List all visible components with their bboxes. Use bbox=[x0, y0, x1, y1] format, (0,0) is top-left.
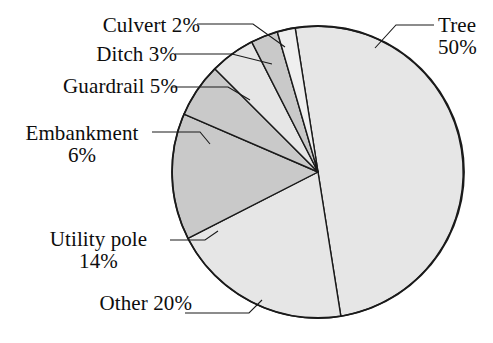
slice-label-culvert-text: Culvert 2% bbox=[103, 13, 200, 37]
pie-slices-group bbox=[172, 26, 464, 318]
slice-label-utility-pole: Utility pole 14% bbox=[26, 228, 171, 273]
slice-label-embankment-value: 6% bbox=[6, 144, 158, 166]
slice-label-tree-value: 50% bbox=[438, 36, 493, 58]
slice-label-other: Other 20% bbox=[42, 292, 192, 314]
slice-label-other-text: Other 20% bbox=[100, 291, 192, 315]
slice-label-tree-text: Tree bbox=[438, 13, 476, 37]
slice-label-guardrail-text: Guardrail 5% bbox=[63, 74, 178, 98]
slice-label-guardrail: Guardrail 5% bbox=[18, 75, 178, 97]
slice-label-utility-pole-value: 14% bbox=[26, 250, 171, 272]
slice-label-utility-pole-text: Utility pole bbox=[50, 227, 147, 251]
slice-label-embankment-text: Embankment bbox=[26, 121, 139, 145]
slice-label-ditch-text: Ditch 3% bbox=[96, 42, 177, 66]
pie-chart-figure: Culvert 2% Ditch 3% Guardrail 5% Embankm… bbox=[0, 0, 493, 343]
slice-label-ditch: Ditch 3% bbox=[45, 43, 177, 65]
slice-label-embankment: Embankment 6% bbox=[6, 122, 158, 167]
slice-label-tree: Tree 50% bbox=[438, 14, 493, 59]
slice-label-culvert: Culvert 2% bbox=[58, 14, 200, 36]
